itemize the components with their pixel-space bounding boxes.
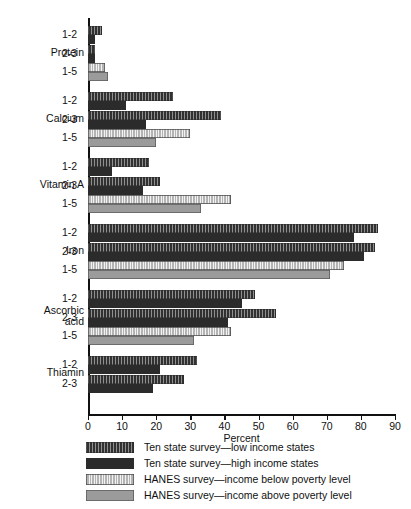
x-tick-label: 10 bbox=[109, 420, 135, 432]
bar-tshigh bbox=[88, 186, 143, 195]
row-label: 1-2 bbox=[62, 28, 84, 40]
row-label: 1-2 bbox=[62, 160, 84, 172]
bar-habove bbox=[88, 336, 194, 345]
x-axis-line bbox=[88, 414, 396, 416]
bar-hbelow bbox=[88, 261, 344, 270]
legend-label: HANES survey—income above poverty level bbox=[144, 488, 352, 503]
bar-tslow bbox=[88, 356, 197, 365]
bar-tslow bbox=[88, 290, 255, 299]
x-tick-label: 90 bbox=[382, 420, 408, 432]
group-label: Iron bbox=[12, 245, 84, 257]
bar-tslow bbox=[88, 177, 160, 186]
x-tick-label: 20 bbox=[143, 420, 169, 432]
legend-swatch bbox=[86, 474, 134, 485]
bar-tslow bbox=[88, 309, 276, 318]
x-tick-label: 0 bbox=[75, 420, 101, 432]
y-axis-labels: 1-22-31-5Protein1-22-31-5Calcium1-22-31-… bbox=[0, 0, 84, 420]
bar-tshigh bbox=[88, 54, 95, 63]
legend-swatch bbox=[86, 458, 134, 469]
legend-swatch bbox=[86, 490, 134, 501]
bar-hbelow bbox=[88, 195, 231, 204]
group-label: Vitamin A bbox=[12, 179, 84, 191]
row-label: 1-2 bbox=[62, 226, 84, 238]
bar-tslow bbox=[88, 45, 95, 54]
bar-hbelow bbox=[88, 129, 190, 138]
group-label-line: acid bbox=[12, 316, 84, 328]
x-tick-label: 70 bbox=[314, 420, 340, 432]
bar-hbelow bbox=[88, 327, 231, 336]
bar-tslow bbox=[88, 375, 184, 384]
row-label: 1-2 bbox=[62, 292, 84, 304]
bar-tshigh bbox=[88, 120, 146, 129]
legend-label: Ten state survey—high income states bbox=[144, 456, 319, 471]
bar-hbelow bbox=[88, 63, 105, 72]
group-label: Protein bbox=[12, 47, 84, 59]
x-tick-label: 60 bbox=[280, 420, 306, 432]
x-tick-label: 80 bbox=[348, 420, 374, 432]
bar-habove bbox=[88, 270, 330, 279]
row-label: 1-5 bbox=[62, 329, 84, 341]
x-tick-label: 50 bbox=[246, 420, 272, 432]
bar-tshigh bbox=[88, 35, 95, 44]
bar-tshigh bbox=[88, 233, 354, 242]
bar-tshigh bbox=[88, 101, 126, 110]
bar-tslow bbox=[88, 26, 102, 35]
row-label: 1-5 bbox=[62, 197, 84, 209]
row-label: 1-5 bbox=[62, 263, 84, 275]
x-tick-label: 30 bbox=[177, 420, 203, 432]
group-label: Ascorbicacid bbox=[12, 305, 84, 328]
legend-item: Ten state survey—low income states bbox=[86, 440, 406, 456]
bar-habove bbox=[88, 204, 201, 213]
bar-tshigh bbox=[88, 167, 112, 176]
row-label: 1-2 bbox=[62, 94, 84, 106]
bar-tslow bbox=[88, 224, 378, 233]
group-label: Calcium bbox=[12, 113, 84, 125]
legend-label: HANES survey—income below poverty level bbox=[144, 472, 351, 487]
row-label: 1-5 bbox=[62, 65, 84, 77]
legend: Ten state survey—low income statesTen st… bbox=[86, 440, 406, 504]
legend-item: HANES survey—income below poverty level bbox=[86, 472, 406, 488]
group-label: Thiamin bbox=[12, 367, 84, 379]
bar-tshigh bbox=[88, 384, 153, 393]
bar-habove bbox=[88, 72, 108, 81]
legend-label: Ten state survey—low income states bbox=[144, 440, 314, 455]
bar-tslow bbox=[88, 158, 149, 167]
bar-tslow bbox=[88, 92, 173, 101]
x-tick-label: 40 bbox=[211, 420, 237, 432]
bar-tshigh bbox=[88, 318, 228, 327]
bar-habove bbox=[88, 138, 156, 147]
bar-tslow bbox=[88, 111, 221, 120]
bar-tshigh bbox=[88, 365, 160, 374]
bar-tslow bbox=[88, 243, 375, 252]
bar-tshigh bbox=[88, 252, 364, 261]
legend-swatch bbox=[86, 442, 134, 453]
plot-area bbox=[88, 18, 395, 414]
bar-tshigh bbox=[88, 299, 242, 308]
row-label: 1-5 bbox=[62, 131, 84, 143]
bar-chart: 0102030405060708090 Percent 1-22-31-5Pro… bbox=[0, 0, 411, 509]
legend-item: HANES survey—income above poverty level bbox=[86, 488, 406, 504]
legend-item: Ten state survey—high income states bbox=[86, 456, 406, 472]
